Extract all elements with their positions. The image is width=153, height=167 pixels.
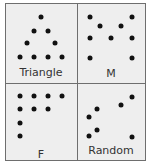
dot: [60, 94, 65, 99]
dot: [109, 36, 114, 41]
dot: [18, 107, 23, 112]
dot: [18, 55, 23, 60]
panel-label-m: M: [106, 68, 116, 80]
dot: [46, 55, 51, 60]
dot: [87, 134, 92, 139]
dot: [18, 94, 23, 99]
dot: [32, 29, 37, 34]
dot: [32, 107, 37, 112]
dot: [18, 121, 23, 126]
dot: [130, 95, 135, 100]
dot: [95, 128, 100, 133]
dot: [88, 36, 93, 41]
panel-label-random: Random: [88, 145, 134, 157]
panel-label-triangle: Triangle: [19, 67, 62, 79]
dot: [46, 94, 51, 99]
dot: [25, 41, 30, 46]
dot: [98, 24, 103, 29]
dot: [88, 56, 93, 61]
dot: [130, 135, 135, 140]
horizontal-divider: [6, 83, 145, 84]
dot: [32, 55, 37, 60]
dot: [95, 107, 100, 112]
dot: [130, 36, 135, 41]
dot: [60, 55, 65, 60]
panel-label-f: F: [38, 149, 44, 161]
dot: [18, 134, 23, 139]
dot: [46, 29, 51, 34]
dot: [130, 15, 135, 20]
dot: [130, 56, 135, 61]
dot: [53, 41, 58, 46]
dot: [119, 103, 124, 108]
dot: [119, 24, 124, 29]
pattern-grid: [5, 3, 146, 161]
dot: [32, 94, 37, 99]
dot: [46, 107, 51, 112]
vertical-divider: [77, 4, 78, 160]
dot: [87, 115, 92, 120]
dot: [39, 15, 44, 20]
dot: [88, 15, 93, 20]
